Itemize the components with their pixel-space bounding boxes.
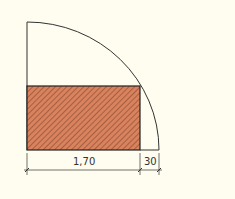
- dimension-label-side: 30: [144, 157, 157, 167]
- diagram-canvas: [0, 0, 235, 199]
- hatched-block: [27, 86, 140, 150]
- dimension-label-main: 1,70: [73, 157, 95, 167]
